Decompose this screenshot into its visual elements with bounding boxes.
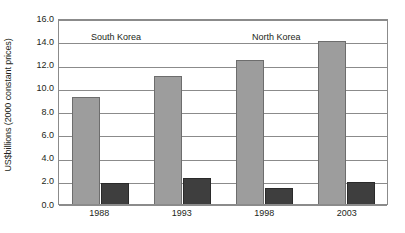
bar-group [223, 20, 305, 204]
plot-area: South Korea North Korea [58, 19, 388, 205]
bar-south-korea [72, 97, 100, 204]
series-annotation-south-korea: South Korea [91, 32, 141, 42]
y-axis-tick-label: 4.0 [41, 154, 54, 163]
y-axis-tick-label: 10.0 [36, 84, 54, 93]
bar-north-korea [347, 182, 375, 204]
bar-north-korea [265, 188, 293, 204]
x-axis-tick-label: 1998 [223, 208, 306, 219]
x-axis-tick-label: 1993 [141, 208, 224, 219]
y-axis-tick-label: 16.0 [36, 15, 54, 24]
x-axis-tick-label: 2003 [306, 208, 389, 219]
bar-north-korea [101, 183, 129, 204]
series-annotation-north-korea: North Korea [252, 32, 301, 42]
gridline [59, 205, 387, 206]
bars-layer [59, 20, 387, 204]
y-axis-tick-label: 14.0 [36, 38, 54, 47]
bar-chart-figure: US$billions (2000 constant prices) 16.01… [0, 0, 405, 233]
y-axis-tick-label: 0.0 [41, 201, 54, 210]
y-axis-tick-label: 8.0 [41, 108, 54, 117]
y-axis-tick-label: 12.0 [36, 61, 54, 70]
y-axis-tick-label: 6.0 [41, 131, 54, 140]
x-axis-tick-labels: 1988199319982003 [58, 208, 388, 219]
y-axis-title-text: US$billions (2000 constant prices) [3, 38, 13, 171]
bar-south-korea [154, 76, 182, 204]
bar-group [59, 20, 141, 204]
x-axis-tick-label: 1988 [58, 208, 141, 219]
y-axis-tick-labels: 16.014.012.010.08.06.04.02.00.0 [18, 13, 56, 205]
bar-north-korea [183, 178, 211, 204]
bar-group [305, 20, 387, 204]
y-axis-title: US$billions (2000 constant prices) [0, 0, 16, 210]
y-axis-tick-label: 2.0 [41, 177, 54, 186]
bar-south-korea [236, 60, 264, 204]
bar-south-korea [318, 41, 346, 204]
bar-group [141, 20, 223, 204]
